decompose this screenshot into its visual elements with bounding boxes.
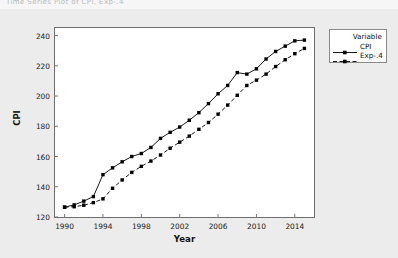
data-point (111, 166, 114, 169)
data-point (255, 67, 258, 70)
data-point (207, 121, 210, 124)
data-point (82, 199, 85, 202)
data-point (293, 39, 296, 42)
data-point (264, 72, 267, 75)
data-point (264, 57, 267, 60)
legend-title: Variable (332, 32, 383, 41)
data-point (274, 65, 277, 68)
data-point (293, 52, 296, 55)
x-tick-label: 2010 (247, 222, 266, 231)
y-tick-label: 120 (36, 213, 50, 222)
legend-entry[interactable]: CPI (332, 42, 383, 51)
data-point (159, 137, 162, 140)
data-point (207, 102, 210, 105)
x-tick-label: 2014 (285, 222, 304, 231)
data-point (72, 205, 75, 208)
x-axis-ticks: 1990199419982002200620102014 (54, 222, 315, 234)
y-tick-label: 200 (36, 92, 50, 101)
y-axis-label: CPI (12, 98, 22, 138)
data-point (236, 71, 239, 74)
data-point (197, 128, 200, 131)
data-point (226, 84, 229, 87)
series-line-exp-4 (65, 48, 305, 207)
data-point (226, 103, 229, 106)
x-axis-label: Year (54, 234, 315, 244)
data-point (245, 84, 248, 87)
data-point (178, 125, 181, 128)
data-point (92, 201, 95, 204)
plot-svg (55, 28, 314, 217)
chart-legend: Variable CPIExp-.4 (329, 29, 387, 63)
legend-label: Exp-.4 (358, 51, 383, 60)
data-point (303, 47, 306, 50)
data-point (284, 58, 287, 61)
data-point (159, 153, 162, 156)
data-point (168, 131, 171, 134)
data-point (245, 72, 248, 75)
legend-key-icon (332, 42, 358, 51)
data-point (92, 195, 95, 198)
x-tick-label: 1994 (94, 222, 113, 231)
data-point (130, 171, 133, 174)
chart-title: Time Series Plot of CPI, Exp-.4 (6, 0, 124, 5)
plot-area (54, 27, 315, 218)
data-point (149, 159, 152, 162)
y-axis-ticks: 120140160180200220240 (22, 27, 50, 218)
data-point (82, 204, 85, 207)
data-point (178, 140, 181, 143)
data-point (236, 94, 239, 97)
chart-figure: Time Series Plot of CPI, Exp-.4 12014016… (0, 0, 398, 258)
data-point (284, 44, 287, 47)
data-point (168, 147, 171, 150)
x-tick-label: 2002 (170, 222, 189, 231)
legend-entries: CPIExp-.4 (332, 42, 383, 60)
data-point (274, 50, 277, 53)
y-tick-label: 160 (36, 152, 50, 161)
data-point (101, 173, 104, 176)
y-tick-label: 180 (36, 122, 50, 131)
data-point (197, 111, 200, 114)
y-tick-label: 220 (36, 61, 50, 70)
series-line-cpi (65, 40, 305, 207)
data-point (120, 178, 123, 181)
data-point (140, 165, 143, 168)
data-point (63, 205, 66, 208)
data-point (149, 146, 152, 149)
data-point (101, 197, 104, 200)
x-tick-label: 2006 (209, 222, 228, 231)
y-tick-label: 240 (36, 31, 50, 40)
legend-label: CPI (358, 42, 371, 51)
data-point (111, 187, 114, 190)
data-point (303, 38, 306, 41)
data-point (216, 92, 219, 95)
data-point (188, 119, 191, 122)
data-point (216, 112, 219, 115)
data-point (255, 78, 258, 81)
data-point (130, 155, 133, 158)
data-point (140, 152, 143, 155)
legend-entry[interactable]: Exp-.4 (332, 51, 383, 60)
y-tick-label: 140 (36, 182, 50, 191)
x-tick-label: 1998 (132, 222, 151, 231)
legend-key-icon (332, 51, 358, 60)
x-tick-label: 1990 (55, 222, 74, 231)
data-point (120, 160, 123, 163)
data-point (188, 134, 191, 137)
